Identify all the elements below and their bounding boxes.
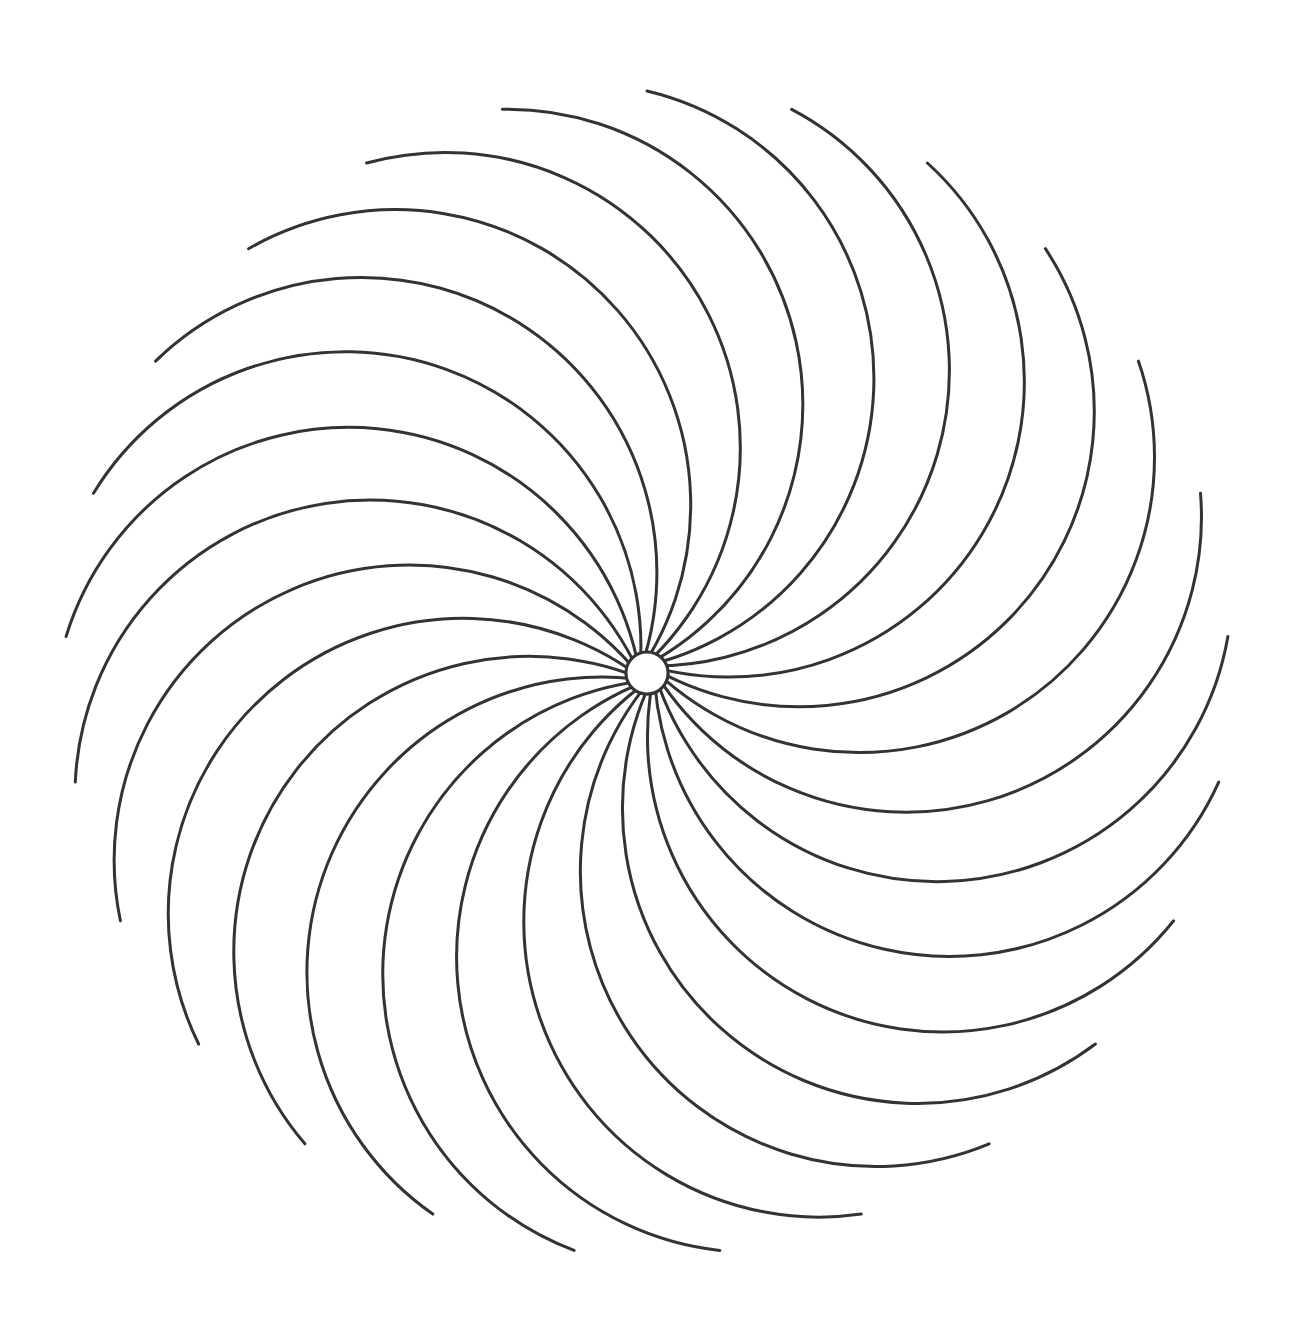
center-hub-circle <box>626 652 668 694</box>
swirl-arc <box>156 277 657 688</box>
swirl-arc <box>94 352 641 692</box>
swirl-arc <box>644 493 1202 812</box>
swirl-arc <box>647 656 1173 1032</box>
swirl-arc <box>628 109 950 666</box>
swirl-arc <box>622 659 1095 1103</box>
swirl-arc <box>502 109 803 675</box>
swirl-arc <box>457 674 720 1251</box>
swirl-arc <box>66 427 642 693</box>
swirl-arc <box>630 163 1024 677</box>
swirl-arc <box>634 249 1094 707</box>
pinwheel-diagram <box>0 0 1305 1323</box>
swirl-arc <box>75 500 647 782</box>
swirl-arc <box>114 565 653 921</box>
swirl-arc <box>234 656 662 1144</box>
